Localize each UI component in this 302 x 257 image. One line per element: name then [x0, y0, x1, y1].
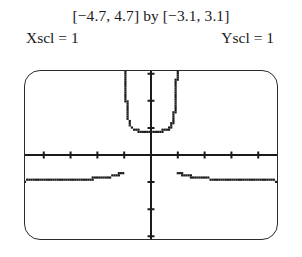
curve-pixel	[268, 179, 270, 181]
curve-pixel	[124, 83, 126, 85]
curve-pixel	[175, 89, 177, 91]
curve-pixel	[172, 111, 174, 113]
curve-pixel	[183, 174, 185, 176]
curve-pixel	[124, 100, 126, 102]
curve-pixel	[209, 179, 211, 181]
curve-pixel	[223, 179, 225, 181]
curve-pixel	[175, 83, 177, 85]
curve-pixel	[242, 179, 244, 181]
curve-pixel	[122, 172, 124, 174]
curve-pixel	[109, 176, 111, 178]
curve-pixel	[260, 179, 262, 181]
curve-pixel	[124, 94, 126, 96]
curve-pixel	[81, 179, 83, 181]
curve-pixel	[126, 109, 128, 111]
curve-pixel	[251, 179, 253, 181]
curve-pixel	[124, 71, 126, 72]
curve-pixel	[177, 172, 179, 174]
curve-pixel	[48, 179, 50, 181]
curve-pixel	[196, 176, 198, 178]
curve-pixel	[144, 131, 146, 133]
curve-pixel	[124, 72, 126, 74]
curve-pixel	[54, 179, 56, 181]
curve-pixel	[107, 176, 109, 178]
curve-pixel	[175, 85, 177, 87]
curve-pixel	[124, 98, 126, 100]
curve-pixel	[175, 109, 177, 111]
curve-pixel	[166, 129, 168, 131]
curve-pixel	[168, 129, 170, 131]
curve-pixel	[201, 176, 203, 178]
curve-pixel	[124, 74, 126, 76]
curve-pixel	[39, 179, 41, 181]
curve-pixel	[175, 81, 177, 83]
curve-pixel	[33, 179, 35, 181]
curve-pixel	[194, 176, 196, 178]
curve-pixel	[126, 100, 128, 102]
curve-pixel	[175, 87, 177, 89]
curve-pixel	[76, 179, 78, 181]
curve-pixel	[207, 176, 209, 178]
curve-pixel	[170, 124, 172, 126]
curve-pixel	[273, 179, 275, 181]
curve-pixel	[28, 179, 30, 181]
curve-pixel	[159, 131, 161, 133]
curve-pixel	[175, 107, 177, 109]
curve-pixel	[126, 113, 128, 115]
curve-pixel	[227, 179, 229, 181]
curve-pixel	[155, 131, 157, 133]
curve-pixel	[44, 179, 46, 181]
curve-pixel	[30, 179, 32, 181]
curve-pixel	[120, 172, 122, 174]
curve-pixel	[220, 179, 222, 181]
curve-pixel	[164, 129, 166, 131]
curve-pixel	[266, 179, 268, 181]
curve-pixel	[179, 172, 181, 174]
curve-pixel	[247, 179, 249, 181]
curve-pixel	[170, 126, 172, 128]
curve-pixel	[41, 179, 43, 181]
curve-pixel	[124, 76, 126, 78]
curve-pixel	[118, 174, 120, 176]
curve-pixel	[175, 105, 177, 107]
curve-pixel	[177, 72, 179, 74]
curve-pixel	[98, 176, 100, 178]
curve-pixel	[116, 174, 118, 176]
curve-pixel	[113, 174, 115, 176]
curve-pixel	[161, 129, 163, 131]
curve-pixel	[57, 179, 59, 181]
curve-pixel	[85, 179, 87, 181]
curve-pixel	[161, 131, 163, 133]
curve-pixel	[46, 179, 48, 181]
curve-pixel	[225, 179, 227, 181]
curve-pixel	[137, 129, 139, 131]
curve-pixel	[175, 100, 177, 102]
curve-pixel	[124, 92, 126, 94]
curve-pixel	[118, 172, 120, 174]
curve-pixel	[129, 120, 131, 122]
curve-pixel	[275, 181, 277, 183]
curve-pixel	[244, 179, 246, 181]
curve-pixel	[181, 172, 183, 174]
curve-pixel	[151, 131, 153, 133]
xscl-label: Xscl = 1	[26, 27, 79, 49]
curve-pixel	[124, 81, 126, 83]
scale-labels-row: Xscl = 1 Yscl = 1	[0, 27, 302, 49]
curve-pixel	[229, 179, 231, 181]
curve-pixel	[126, 118, 128, 120]
curve-pixel	[240, 179, 242, 181]
curve-pixel	[37, 179, 39, 181]
curve-pixel	[70, 179, 72, 181]
curve-pixel	[126, 116, 128, 118]
curve-pixel	[177, 74, 179, 76]
curve-pixel	[126, 103, 128, 105]
curve-pixel	[129, 122, 131, 124]
curve-pixel	[153, 131, 155, 133]
curve-pixel	[124, 79, 126, 81]
curve-pixel	[92, 176, 94, 178]
curve-pixel	[172, 118, 174, 120]
curve-pixel	[177, 76, 179, 78]
curve-pixel	[177, 71, 179, 72]
curve-pixel	[124, 96, 126, 98]
viewing-window-label: [−4.7, 4.7] by [−3.1, 3.1]	[0, 0, 302, 26]
